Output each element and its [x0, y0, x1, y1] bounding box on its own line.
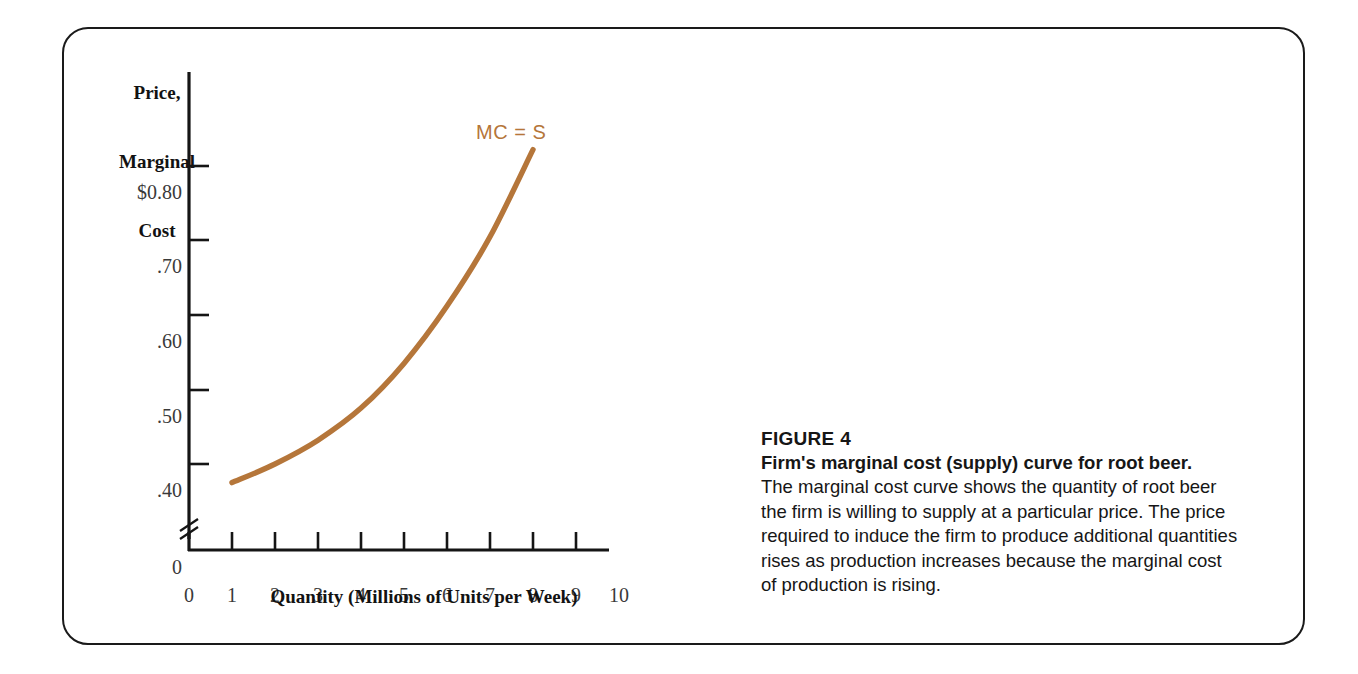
- chart-area: Price, Marginal Cost $0.80 .70 .60 .50 .…: [64, 29, 764, 647]
- chart-plot-svg: [64, 29, 764, 647]
- figure-caption-title: Firm's marginal cost (supply) curve for …: [761, 451, 1241, 475]
- figure-caption: FIGURE 4 Firm's marginal cost (supply) c…: [761, 427, 1241, 598]
- figure-number-label: FIGURE 4: [761, 427, 1241, 451]
- x-axis-title: Quantity (Millions of Units per Week): [124, 586, 724, 608]
- x-axis-ticks: [232, 532, 576, 550]
- figure-frame: Price, Marginal Cost $0.80 .70 .60 .50 .…: [62, 27, 1305, 645]
- figure-caption-body: The marginal cost curve shows the quanti…: [761, 475, 1241, 598]
- y-axis-ticks: [189, 166, 209, 464]
- marginal-cost-supply-curve: [232, 150, 533, 483]
